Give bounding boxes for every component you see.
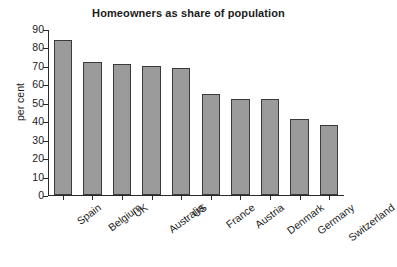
y-tick-label: 10	[32, 171, 44, 184]
x-tick-label-text: Spain	[74, 201, 103, 227]
bar	[202, 94, 220, 195]
bar	[83, 62, 101, 195]
x-tick-mark	[63, 196, 64, 200]
y-tick-label: 30	[32, 134, 44, 147]
y-tick-label: 90	[32, 23, 44, 36]
bar	[142, 66, 160, 195]
x-tick-mark	[122, 196, 123, 200]
y-tick-label: 80	[32, 41, 44, 54]
x-tick-mark	[270, 196, 271, 200]
x-tick-mark	[240, 196, 241, 200]
y-tick-label: 70	[32, 60, 44, 73]
x-tick-label-text: France	[223, 201, 256, 230]
y-tick-label: 20	[32, 152, 44, 165]
bar	[113, 64, 131, 195]
bar	[172, 68, 190, 195]
y-axis-spine	[48, 30, 49, 196]
x-tick-label-text: Austria	[253, 201, 286, 230]
y-axis-label: per cent	[14, 62, 26, 142]
y-tick-label: 40	[32, 115, 44, 128]
x-tick-mark	[329, 196, 330, 200]
bar	[320, 125, 338, 195]
y-tick-label: 60	[32, 78, 44, 91]
x-tick-mark	[181, 196, 182, 200]
bar	[261, 99, 279, 195]
plot-area: 0102030405060708090	[48, 30, 344, 196]
y-tick-label: 50	[32, 97, 44, 110]
x-tick-mark	[300, 196, 301, 200]
x-tick-mark	[152, 196, 153, 200]
x-tick-mark	[211, 196, 212, 200]
chart-title: Homeowners as share of population	[0, 7, 377, 19]
x-tick-mark	[92, 196, 93, 200]
bar	[231, 99, 249, 195]
bar	[54, 40, 72, 195]
y-tick-label: 0	[38, 189, 44, 202]
bar	[290, 119, 308, 195]
